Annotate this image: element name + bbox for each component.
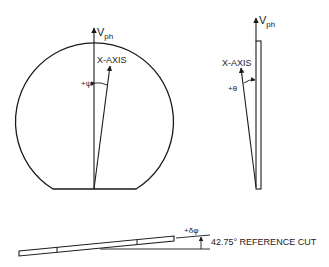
theta-angle-arc — [244, 80, 255, 83]
reference-cut-view: +δφ 42.75° REFERENCE CUT — [19, 226, 317, 256]
x-axis-arrow — [94, 66, 110, 189]
delta-phi-label: +δφ — [184, 226, 198, 235]
plate-edge — [256, 41, 261, 189]
crystal-orientation-diagram: Vph X-AXIS +ψ Vph X-AXIS +θ +δφ 42.75° R… — [0, 0, 329, 267]
tilt-extension-line — [176, 235, 210, 238]
psi-label: +ψ — [81, 79, 92, 88]
x-axis-arrow-right — [241, 68, 256, 187]
theta-label: +θ — [228, 84, 238, 93]
psi-angle-arc — [95, 83, 107, 85]
vph-label: Vph — [97, 26, 113, 41]
tilted-bar — [19, 236, 174, 256]
x-axis-label: X-AXIS — [97, 55, 127, 65]
wafer-top-view: Vph X-AXIS +ψ — [15, 26, 173, 189]
reference-cut-label: 42.75° REFERENCE CUT — [211, 237, 317, 247]
vph-label-right: Vph — [259, 14, 275, 29]
wafer-side-view: Vph X-AXIS +θ — [222, 14, 275, 189]
x-axis-label-right: X-AXIS — [222, 58, 252, 68]
